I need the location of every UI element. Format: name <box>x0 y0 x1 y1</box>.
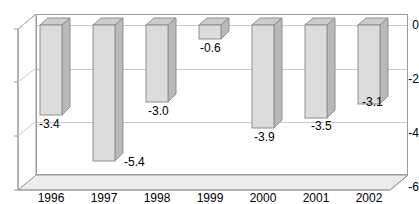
y-axis-tick-0: 0 <box>393 20 419 30</box>
data-label-1999: -0.6 <box>200 41 221 55</box>
x-axis-label-1998: 1998 <box>134 191 180 204</box>
plot-area-backwall <box>36 14 408 175</box>
x-axis-label-1997: 1997 <box>81 191 127 204</box>
y-axis-tick-minus4: -4 <box>393 128 419 138</box>
y-axis-tick-minus2: -2 <box>393 74 419 84</box>
x-axis-label-2001: 2001 <box>293 191 339 204</box>
gridline-0 <box>37 25 407 26</box>
chart-3d-column: 0 -2 -4 -6 <box>0 0 419 204</box>
data-label-1996: -3.4 <box>39 117 60 131</box>
y-axis-tick-minus6: -6 <box>393 182 419 192</box>
x-axis-label-2002: 2002 <box>346 191 392 204</box>
x-axis-label-1999: 1999 <box>187 191 233 204</box>
data-label-2002: -3.1 <box>362 95 383 109</box>
data-label-2001: -3.5 <box>311 119 332 133</box>
x-axis-label-1996: 1996 <box>28 191 74 204</box>
data-label-1998: -3.0 <box>148 104 169 118</box>
data-label-2000: -3.9 <box>254 130 275 144</box>
data-label-1997: -5.4 <box>124 155 145 169</box>
x-axis-label-2000: 2000 <box>240 191 286 204</box>
gridline-minus2 <box>37 69 407 70</box>
gridline-minus4 <box>37 122 407 123</box>
